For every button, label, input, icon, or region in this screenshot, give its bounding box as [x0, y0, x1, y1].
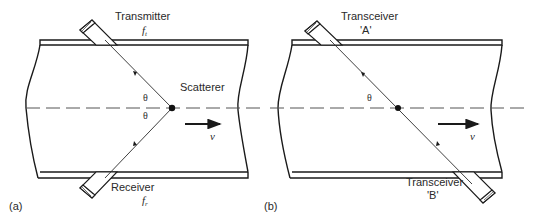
- transceiver-a: [305, 21, 342, 45]
- incident-beam: [105, 40, 172, 108]
- pipe-section-a: [26, 40, 248, 178]
- pipe-section-b: [278, 40, 502, 178]
- receiver-label: Receiver: [111, 181, 155, 193]
- panel-a: Transmitter ft Scatterer θ θ v Receiver …: [9, 10, 264, 212]
- angle-theta: θ: [367, 92, 372, 103]
- transmitter-frequency: ft: [142, 24, 148, 38]
- scatterer-dot: [169, 105, 175, 111]
- centre-dot: [395, 105, 401, 111]
- doppler-flowmeter-diagram: Transmitter ft Scatterer θ θ v Receiver …: [0, 0, 534, 217]
- transceiver-b-id: 'B': [427, 189, 439, 201]
- angle-theta-top: θ: [143, 92, 148, 103]
- scattered-beam: [105, 108, 172, 178]
- transit-beam: [330, 40, 472, 184]
- scatterer-label: Scatterer: [180, 81, 225, 93]
- beam-arrow-up-icon: [436, 141, 440, 146]
- panel-caption-a: (a): [9, 200, 22, 212]
- angle-theta-bottom: θ: [143, 110, 148, 121]
- velocity-label-a: v: [210, 130, 215, 142]
- transmitter-label: Transmitter: [115, 10, 171, 22]
- transceiver-b-label: Transceiver: [406, 176, 463, 188]
- receiver-frequency: fr: [142, 194, 148, 208]
- velocity-label-b: v: [470, 130, 475, 142]
- transmitter-transducer: [80, 20, 117, 45]
- transceiver-a-label: Transceiver: [341, 10, 398, 22]
- panel-b: Transceiver 'A' θ v Transceiver 'B' (b): [264, 10, 530, 212]
- panel-caption-b: (b): [264, 200, 277, 212]
- transceiver-a-id: 'A': [360, 24, 372, 36]
